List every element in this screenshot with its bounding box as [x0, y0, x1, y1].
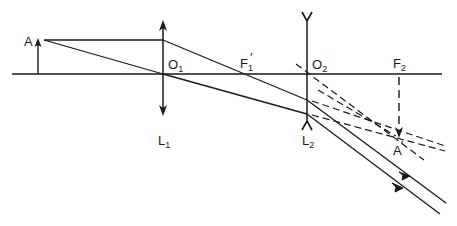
optics-diagram: A O1 L1 F1′ O2 L2 F2: [0, 0, 457, 226]
o2-label: O2: [312, 57, 327, 74]
construction-lines: [296, 64, 445, 160]
o1-label: O1: [168, 57, 183, 74]
lens-l2: [302, 12, 312, 130]
l1-label: L1: [158, 133, 170, 150]
object-label: A: [24, 34, 33, 49]
image-label: A′: [393, 138, 404, 158]
l2-label: L2: [302, 133, 314, 150]
f1-prime-label: F1′: [240, 50, 253, 73]
lens-l1: [159, 20, 167, 116]
object-arrow: [35, 38, 42, 74]
ray-arrowhead-upper: [399, 172, 410, 180]
image-arrow: [395, 77, 403, 138]
f2-label: F2: [393, 56, 406, 73]
